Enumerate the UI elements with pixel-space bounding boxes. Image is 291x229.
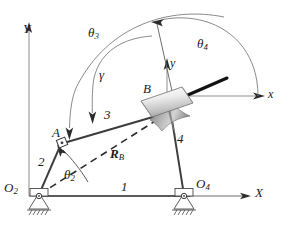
axis-label-X: X bbox=[255, 186, 263, 199]
link-label-3: 3 bbox=[104, 108, 111, 121]
joint-label-O2: O2 bbox=[4, 181, 18, 196]
global-axis-y bbox=[26, 22, 32, 196]
link-label-2: 2 bbox=[38, 155, 45, 168]
ground-support-O2 bbox=[27, 189, 51, 216]
ground-support-O4 bbox=[172, 189, 196, 216]
angle-label-gamma: γ bbox=[99, 68, 104, 81]
diagram-canvas bbox=[0, 0, 291, 229]
angle-label-theta2-sub: 2 bbox=[70, 173, 74, 183]
joint-label-A: A bbox=[52, 126, 60, 139]
vector-label-RB-text: R bbox=[110, 146, 119, 161]
joint-label-B: B bbox=[143, 82, 151, 95]
angle-label-theta4-sub: 4 bbox=[203, 42, 207, 52]
angle-label-theta4: θ4 bbox=[197, 37, 208, 52]
joint-label-O2-text: O bbox=[4, 180, 13, 195]
vector-label-RB: RB bbox=[110, 147, 124, 162]
axis-label-local-y: y bbox=[170, 57, 175, 69]
axis-label-local-x: x bbox=[268, 88, 273, 100]
angle-label-theta3-sub: 3 bbox=[94, 31, 98, 41]
axis-label-Y: Y bbox=[23, 22, 30, 35]
joint-label-O4-text: O bbox=[196, 176, 205, 191]
angle-label-theta3: θ3 bbox=[88, 26, 99, 41]
angle-label-theta2: θ2 bbox=[64, 168, 75, 183]
joint-label-O4: O4 bbox=[196, 177, 210, 192]
link-label-1: 1 bbox=[121, 180, 128, 193]
vector-label-RB-sub: B bbox=[119, 152, 124, 162]
link-label-4: 4 bbox=[177, 132, 184, 145]
joint-label-O2-sub: 2 bbox=[13, 186, 17, 196]
joint-label-O4-sub: 4 bbox=[205, 182, 209, 192]
kinematic-diagram-figure: Y X x y O2 O4 A B 1 2 3 4 θ2 θ3 θ4 γ RB bbox=[0, 0, 291, 229]
angle-label-gamma-text: γ bbox=[99, 67, 104, 82]
